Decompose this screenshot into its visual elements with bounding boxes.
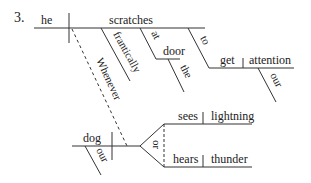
article-slant [168,59,184,92]
infinitive-verb-label: get [220,53,235,67]
conjunction-label: or [151,140,163,150]
prep-object-label: door [163,44,185,58]
problem-number: 3. [14,10,25,25]
pred2-object-label: thunder [211,152,248,166]
adverb-label: frantically [111,29,144,75]
sentence-diagram: 3. he scratches frantically at door the … [0,0,311,183]
infinitive-marker-label: to [198,33,213,47]
sub-subject-label: dog [83,131,101,145]
main-subject: he [41,13,52,27]
infinitive-object-label: attention [249,53,291,67]
main-verb: scratches [109,13,153,27]
object-possessive-label: our [268,70,286,89]
pred1-verb-label: sees [178,109,198,123]
sub-possessive-label: our [94,145,112,164]
preposition-label: at [149,28,163,41]
pred2-verb-label: hears [173,152,199,166]
pred1-object-label: lightning [211,109,254,123]
article-label: the [178,62,195,80]
